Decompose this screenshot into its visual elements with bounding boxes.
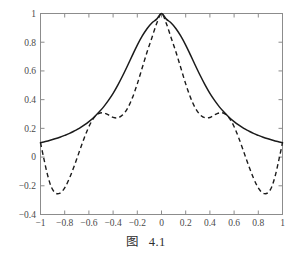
y-tick-label: −0.4: [19, 210, 36, 220]
x-tick-label: −0.4: [104, 218, 121, 228]
y-tick-label: 0.8: [24, 38, 36, 48]
x-tick-label: −0.2: [129, 218, 146, 228]
caption-prefix: 图: [126, 235, 140, 249]
x-tick-label: 1: [280, 218, 285, 228]
y-tick-label: −0.2: [19, 181, 36, 191]
y-tick-label: 0.6: [24, 66, 36, 76]
x-tick-label: −0.6: [80, 218, 97, 228]
x-tick-label: 0.8: [252, 218, 264, 228]
x-tick-label: 0.6: [228, 218, 240, 228]
chart-background: [0, 0, 292, 230]
figure-container: −1−0.8−0.6−0.4−0.200.20.40.60.81−0.4−0.2…: [0, 0, 292, 261]
y-tick-label: 0.2: [24, 124, 36, 134]
x-tick-label: −1: [35, 218, 45, 228]
y-tick-label: 0: [31, 152, 36, 162]
y-tick-label: 0.4: [24, 95, 36, 105]
caption-number: 4.1: [149, 235, 166, 249]
x-tick-label: 0: [159, 218, 164, 228]
chart-plot: −1−0.8−0.6−0.4−0.200.20.40.60.81−0.4−0.2…: [0, 0, 292, 230]
figure-caption: 图4.1: [0, 231, 292, 250]
x-tick-label: 0.4: [204, 218, 216, 228]
x-tick-label: −0.8: [56, 218, 73, 228]
x-tick-label: 0.2: [180, 218, 192, 228]
y-tick-label: 1: [31, 9, 36, 19]
